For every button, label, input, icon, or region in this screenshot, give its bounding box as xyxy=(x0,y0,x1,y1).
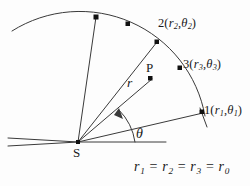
eq-term-4: r xyxy=(219,159,225,174)
point-3-theta: θ xyxy=(206,57,212,71)
radius-equality-equation: r1 = r2 = r3 = r0 xyxy=(134,160,230,176)
point-2-theta: θ xyxy=(181,16,187,30)
eq-term-3: r xyxy=(190,159,196,174)
eq-sub-1: 1 xyxy=(140,166,145,176)
eq-op-3: = xyxy=(206,159,215,174)
eq-sub-4: 0 xyxy=(225,166,230,176)
point-2-r-sub: 2 xyxy=(174,22,178,31)
point-3-theta-sub: 3 xyxy=(213,63,217,72)
point-2-label: 2(r2,θ2) xyxy=(158,17,196,32)
point-2-dot xyxy=(155,40,160,45)
arc-dot-top xyxy=(94,15,99,20)
point-1-r: r xyxy=(215,103,220,117)
eq-op-1: = xyxy=(150,159,159,174)
point-1-r-sub: 1 xyxy=(220,109,224,118)
point-3-r: r xyxy=(194,57,199,71)
wedge-line-upper xyxy=(8,138,78,142)
point-1-label: 1(r1,θ1) xyxy=(204,104,242,119)
point-3-dot xyxy=(178,66,183,71)
eq-op-2: = xyxy=(178,159,187,174)
vertex-s-label: S xyxy=(73,146,80,159)
point-3-name: 3 xyxy=(183,57,189,71)
vertex-s-dot xyxy=(76,140,80,144)
point-1-theta: θ xyxy=(227,103,233,117)
point-1-theta-sub: 1 xyxy=(234,109,238,118)
point-p-dot xyxy=(148,76,153,81)
point-3-label: 3(r3,θ3) xyxy=(183,58,221,73)
angle-theta-label: θ xyxy=(136,127,143,141)
polar-coordinate-diagram: P r θ S 1(r1,θ1) 2(r2,θ2) 3(r3,θ3) r1 = … xyxy=(0,0,250,186)
arc-dot-secondary xyxy=(126,22,131,27)
eq-sub-2: 2 xyxy=(168,166,173,176)
point-2-r: r xyxy=(169,16,174,30)
point-3-r-sub: 3 xyxy=(199,63,203,72)
point-p-label: P xyxy=(146,61,153,74)
point-2-name: 2 xyxy=(158,16,164,30)
wedge-line-lower xyxy=(8,142,78,146)
eq-sub-3: 3 xyxy=(197,166,202,176)
point-2-theta-sub: 2 xyxy=(188,22,192,31)
radius-r-label: r xyxy=(127,76,132,90)
point-1-name: 1 xyxy=(204,103,210,117)
